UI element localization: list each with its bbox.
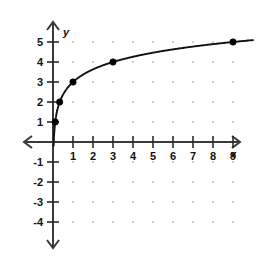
grid-dot: [212, 61, 214, 63]
x-tick-label: 4: [130, 150, 137, 162]
y-tick-label-layer: 54321-1-2-3-4: [33, 36, 44, 228]
grid-dot: [232, 81, 234, 83]
grid-dot: [132, 81, 134, 83]
grid-dot: [192, 221, 194, 223]
grid-dot: [152, 201, 154, 203]
x-axis: [24, 136, 240, 148]
grid-dot: [192, 41, 194, 43]
grid-dot: [152, 221, 154, 223]
grid-dot: [192, 121, 194, 123]
data-point: [110, 59, 116, 65]
grid-dot: [212, 81, 214, 83]
grid-dot: [192, 201, 194, 203]
grid-dot: [132, 221, 134, 223]
log-curve: [54, 40, 253, 146]
grid-dot: [232, 61, 234, 63]
y-tick-label: -1: [33, 156, 43, 168]
data-point: [70, 79, 76, 85]
x-tick-label: 2: [90, 150, 96, 162]
x-tick-label: 8: [210, 150, 216, 162]
grid-dot: [152, 181, 154, 183]
y-tick-label: 1: [37, 116, 43, 128]
grid-dot: [132, 121, 134, 123]
grid-dot: [92, 221, 94, 223]
grid-dot: [132, 101, 134, 103]
grid-dot: [92, 121, 94, 123]
grid-dot: [112, 181, 114, 183]
grid-dot: [72, 221, 74, 223]
grid-dot: [152, 101, 154, 103]
grid-dot: [92, 41, 94, 43]
y-axis: [47, 22, 59, 248]
data-point: [230, 39, 236, 45]
grid-dot: [112, 221, 114, 223]
y-axis-label: y: [62, 26, 70, 38]
grid-dot: [92, 61, 94, 63]
x-tick-label: 1: [70, 150, 76, 162]
grid-dot: [172, 41, 174, 43]
data-point: [52, 119, 58, 125]
grid-dot: [232, 121, 234, 123]
grid-dot: [172, 61, 174, 63]
grid-dot: [92, 101, 94, 103]
grid-dot: [72, 181, 74, 183]
grid-dot: [112, 121, 114, 123]
grid-dot: [152, 61, 154, 63]
grid-dot: [172, 81, 174, 83]
grid-dot: [152, 41, 154, 43]
data-point-layer: [52, 39, 236, 125]
grid-dot: [172, 121, 174, 123]
grid-dot: [132, 41, 134, 43]
grid-dot: [212, 221, 214, 223]
grid-dot: [132, 181, 134, 183]
grid-dot: [172, 201, 174, 203]
grid-dot: [72, 121, 74, 123]
grid-dot: [112, 101, 114, 103]
grid-dot: [172, 221, 174, 223]
grid-dot: [232, 221, 234, 223]
grid-dot: [192, 61, 194, 63]
grid-dot: [132, 201, 134, 203]
grid-dot: [92, 181, 94, 183]
grid-dot: [192, 181, 194, 183]
grid-dot: [212, 181, 214, 183]
grid-dot: [152, 81, 154, 83]
grid-dot: [192, 81, 194, 83]
grid-dot: [172, 101, 174, 103]
grid-dot: [72, 61, 74, 63]
grid-dot: [92, 81, 94, 83]
data-point: [56, 99, 62, 105]
y-tick-label: 5: [37, 36, 43, 48]
grid-dot: [172, 181, 174, 183]
grid-dot: [92, 201, 94, 203]
grid-dot: [232, 101, 234, 103]
x-tick-label: 3: [110, 150, 116, 162]
grid-dot: [112, 41, 114, 43]
grid-dot: [112, 201, 114, 203]
grid-dot: [212, 101, 214, 103]
grid-dot: [72, 101, 74, 103]
y-tick-label: -4: [33, 216, 44, 228]
grid-dot: [212, 201, 214, 203]
grid-dot: [192, 101, 194, 103]
x-axis-label: x: [229, 148, 237, 160]
grid-dot: [112, 81, 114, 83]
grid-dot: [232, 181, 234, 183]
graph-figure: 123456789 54321-1-2-3-4 x y: [0, 0, 262, 260]
grid-dot: [212, 121, 214, 123]
y-tick-label: 4: [37, 56, 44, 68]
y-tick-label: -2: [33, 176, 43, 188]
grid-dot: [72, 201, 74, 203]
x-tick-label: 6: [170, 150, 176, 162]
grid-dot: [232, 201, 234, 203]
grid-dot: [132, 61, 134, 63]
y-tick-label: 3: [37, 76, 43, 88]
grid-dot: [152, 121, 154, 123]
coordinate-plane: 123456789 54321-1-2-3-4 x y: [0, 0, 262, 260]
x-tick-label-layer: 123456789: [70, 150, 236, 162]
x-tick-label: 7: [190, 150, 196, 162]
x-tick-label: 5: [150, 150, 156, 162]
grid-dot: [212, 41, 214, 43]
grid-dot: [72, 41, 74, 43]
y-tick-label: -3: [33, 196, 43, 208]
